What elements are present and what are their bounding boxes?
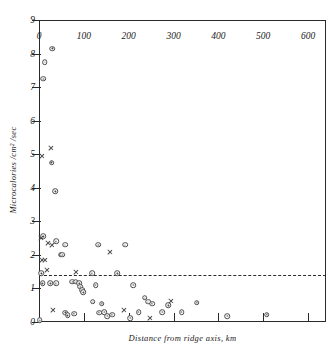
data-point xyxy=(109,312,115,318)
y-tick-label-6: 6 xyxy=(30,116,35,126)
data-point xyxy=(107,249,113,255)
data-point xyxy=(65,312,71,318)
data-point xyxy=(42,257,48,263)
x-tick-100 xyxy=(84,313,85,322)
data-point xyxy=(71,311,77,317)
data-point xyxy=(194,300,200,306)
data-point xyxy=(39,153,45,159)
data-point xyxy=(264,312,270,318)
data-point xyxy=(149,301,155,307)
x-tick-label-400: 400 xyxy=(211,31,225,41)
data-point xyxy=(89,271,95,277)
data-point xyxy=(93,282,99,288)
y-tick-label-2: 2 xyxy=(30,250,35,260)
x-tick-300 xyxy=(174,313,175,322)
y-axis-title: Microcalories /cm² /sec xyxy=(8,115,18,225)
y-tick-label-5: 5 xyxy=(30,149,35,159)
data-point xyxy=(62,242,68,248)
data-point xyxy=(47,281,53,287)
data-point xyxy=(53,281,59,287)
data-point xyxy=(130,282,136,288)
data-point xyxy=(95,242,101,248)
data-point xyxy=(49,160,55,166)
data-point xyxy=(147,315,153,321)
data-point xyxy=(90,299,96,305)
scatter-plot-figure: 0123456789 0100200300400500600 Distance … xyxy=(0,0,334,348)
x-tick-label-100: 100 xyxy=(77,31,91,41)
x-tick-600 xyxy=(308,313,309,322)
data-point xyxy=(115,271,121,277)
data-point xyxy=(38,235,44,241)
data-point xyxy=(136,309,142,315)
y-tick-label-7: 7 xyxy=(30,82,35,92)
x-tick-label-300: 300 xyxy=(166,31,180,41)
data-point xyxy=(225,313,231,319)
data-point xyxy=(40,281,46,287)
x-tick-400 xyxy=(218,313,219,322)
data-point xyxy=(99,301,105,307)
data-point xyxy=(44,267,50,273)
data-point xyxy=(50,307,56,313)
data-point xyxy=(41,76,47,82)
x-tick-label-600: 600 xyxy=(301,31,315,41)
data-point xyxy=(52,188,58,194)
data-point xyxy=(121,307,127,313)
data-point xyxy=(73,269,79,275)
data-point xyxy=(122,242,128,248)
y-tick-label-8: 8 xyxy=(30,49,35,59)
data-point xyxy=(179,309,185,315)
data-point xyxy=(128,315,134,321)
y-tick-label-3: 3 xyxy=(30,216,35,226)
y-tick-label-1: 1 xyxy=(30,283,35,293)
data-point xyxy=(37,318,43,324)
x-tick-label-0: 0 xyxy=(37,31,42,41)
data-point xyxy=(81,290,87,296)
data-point xyxy=(160,309,166,315)
y-tick-label-9: 9 xyxy=(30,15,35,25)
data-point xyxy=(60,252,66,258)
x-tick-label-500: 500 xyxy=(256,31,270,41)
data-point xyxy=(50,46,56,52)
plot-canvas: 0123456789 0100200300400500600 xyxy=(39,20,326,322)
y-tick-label-4: 4 xyxy=(30,183,35,193)
data-point xyxy=(49,242,55,248)
data-point xyxy=(168,298,174,304)
y-tick-label-0: 0 xyxy=(30,317,35,327)
data-point xyxy=(48,145,54,151)
data-point xyxy=(42,59,48,65)
x-axis-title: Distance from ridge axis, km xyxy=(39,333,326,343)
x-tick-label-200: 200 xyxy=(122,31,136,41)
reference-dashed-line xyxy=(39,275,326,276)
